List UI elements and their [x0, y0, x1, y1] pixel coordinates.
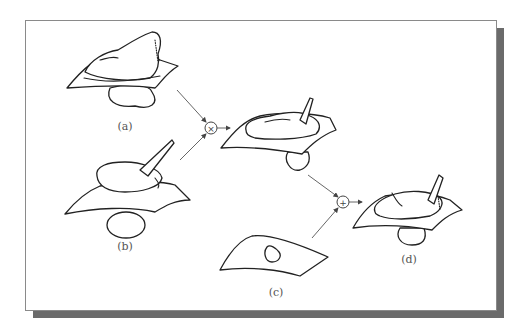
label-d: (d) [401, 253, 417, 266]
shape-c [220, 236, 328, 276]
label-a: (a) [117, 120, 132, 133]
shape-b [65, 140, 190, 238]
add-symbol: + [339, 198, 347, 208]
shape-d [353, 175, 462, 245]
shape-a [67, 32, 178, 107]
multiply-symbol: × [207, 124, 215, 134]
multiply-operator: × [177, 90, 230, 160]
label-c: (c) [269, 286, 284, 299]
shape-intermediate [221, 98, 336, 170]
diagram-canvas: × + [0, 0, 527, 335]
add-operator: + [308, 175, 362, 238]
label-b: (b) [117, 240, 133, 253]
